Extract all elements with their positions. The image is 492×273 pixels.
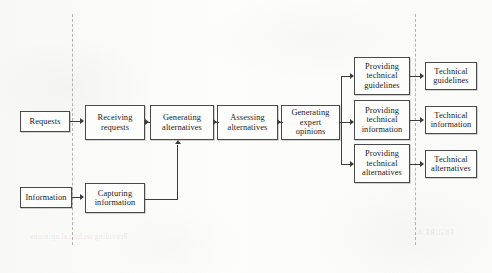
node-information: Information <box>20 187 72 208</box>
node-generating-expert-opinions: Generating expert opinions <box>281 105 340 140</box>
arrowhead-technical-guidelines <box>420 73 424 79</box>
arrowhead-technical-information <box>420 117 424 123</box>
node-capturing-information: Capturing information <box>85 183 145 213</box>
lane-divider-right <box>415 14 416 245</box>
node-receiving-requests: Receiving requests <box>85 105 145 140</box>
node-assessing-alternatives: Assessing alternatives <box>217 105 278 140</box>
node-assessing-alternatives-line-2: alternatives <box>226 123 270 132</box>
arrowhead-providing-technical-guidelines <box>350 73 354 79</box>
node-technical-alternatives: Technical alternatives <box>425 150 477 178</box>
arrowhead-capturing-information <box>80 194 84 200</box>
node-providing-technical-information: Providing technical information <box>354 100 410 140</box>
node-providing-technical-alternatives: Providing technical alternatives <box>354 144 410 183</box>
node-generating-expert-opinions-line-2: expert opinions <box>282 118 339 137</box>
arrowhead-generating-expert-opinions <box>277 119 281 125</box>
node-technical-guidelines-line-1: Technical <box>432 67 469 76</box>
flowchart-canvas: Providing technical opinions FIGURE 4 Re… <box>0 0 492 273</box>
lane-divider-left <box>72 14 73 245</box>
node-receiving-requests-line-1: Receiving <box>96 113 135 122</box>
node-providing-technical-guidelines-line-2: technical <box>364 71 399 80</box>
arrowhead-generating-alternatives <box>145 119 149 125</box>
node-providing-technical-alternatives-line-1: Providing <box>363 149 401 158</box>
node-generating-alternatives-line-2: alternatives <box>160 123 204 132</box>
node-information-line-1: Information <box>23 193 68 202</box>
node-providing-technical-guidelines: Providing technical guidelines <box>354 57 410 95</box>
node-assessing-alternatives-line-1: Assessing <box>228 113 266 122</box>
node-requests: Requests <box>20 111 70 132</box>
node-technical-alternatives-line-2: alternatives <box>429 164 473 173</box>
node-technical-information: Technical information <box>425 106 477 134</box>
arrowhead-technical-alternatives <box>420 161 424 167</box>
node-technical-alternatives-line-1: Technical <box>432 155 469 164</box>
node-generating-expert-opinions-line-1: Generating <box>289 108 331 117</box>
node-capturing-information-line-2: information <box>93 198 138 207</box>
edge-branch-bus-vertical <box>341 76 342 164</box>
node-providing-technical-information-line-3: information <box>360 125 405 134</box>
node-capturing-information-line-1: Capturing <box>96 189 134 198</box>
node-providing-technical-information-line-2: technical <box>364 115 399 124</box>
edge-capturing-information-horizontal <box>145 199 178 200</box>
arrowhead-providing-technical-information <box>350 119 354 125</box>
node-technical-guidelines-line-2: guidelines <box>431 76 470 85</box>
node-providing-technical-alternatives-line-2: technical <box>364 159 399 168</box>
edge-capturing-information-vertical <box>177 145 178 200</box>
node-providing-technical-alternatives-line-3: alternatives <box>360 168 404 177</box>
node-technical-information-line-2: information <box>429 120 474 129</box>
node-providing-technical-guidelines-line-3: guidelines <box>362 81 401 90</box>
arrowhead-receiving-requests <box>80 118 84 124</box>
arrowhead-assessing-alternatives <box>213 119 217 125</box>
arrowhead-generating-alternatives-from-capturing <box>175 140 181 144</box>
bleed-through-text-b: FIGURE 4 <box>418 228 454 237</box>
node-generating-alternatives: Generating alternatives <box>150 105 214 140</box>
node-technical-guidelines: Technical guidelines <box>425 62 477 90</box>
node-providing-technical-information-line-1: Providing <box>363 106 401 115</box>
node-generating-alternatives-line-1: Generating <box>161 113 203 122</box>
node-providing-technical-guidelines-line-1: Providing <box>363 62 401 71</box>
node-requests-line-1: Requests <box>27 117 62 126</box>
arrowhead-providing-technical-alternatives <box>350 161 354 167</box>
node-receiving-requests-line-2: requests <box>99 123 131 132</box>
bleed-through-text-a: Providing technical opinions <box>30 232 127 241</box>
node-technical-information-line-1: Technical <box>432 111 469 120</box>
